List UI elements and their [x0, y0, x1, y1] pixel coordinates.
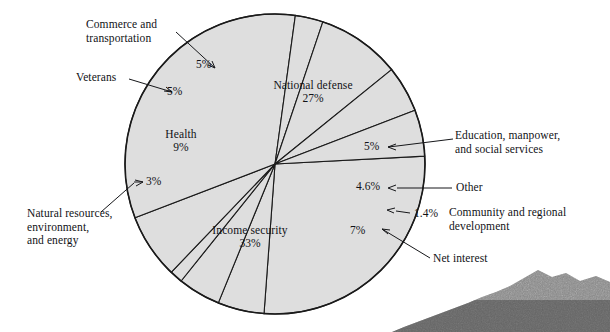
slice-value-health: 9%: [146, 141, 216, 153]
pie-chart-figure: Commerce and transportation Veterans Hea…: [0, 0, 610, 332]
slice-label-community-development: Community and regional development: [449, 206, 566, 233]
slice-label-national-defense: National defense: [252, 79, 374, 93]
slice-label-natural-resources: Natural resources, environment, and ener…: [27, 207, 112, 248]
slice-value-other: 4.6%: [356, 180, 380, 192]
slice-value-education: 5%: [364, 140, 379, 152]
pie-slices-group: [125, 14, 425, 314]
slice-value-natural-resources: 3%: [146, 175, 161, 187]
slice-value-net-interest: 7%: [350, 224, 365, 236]
slice-value-national-defense: 27%: [252, 92, 374, 104]
slice-label-health: Health: [146, 128, 216, 142]
slice-label-commerce-and-transportation: Commerce and transportation: [86, 18, 157, 45]
pie-chart-svg: [0, 0, 610, 332]
slice-value-community-development: 1.4%: [414, 207, 438, 219]
slice-label-income-security: Income security: [194, 224, 306, 238]
slice-value-veterans: 5%: [167, 85, 182, 97]
slice-label-net-interest: Net interest: [433, 252, 488, 266]
slice-value-commerce-and-transportation: 5%: [196, 58, 211, 70]
slice-label-other: Other: [456, 181, 483, 195]
slice-label-veterans: Veterans: [76, 71, 116, 85]
slice-label-education: Education, manpower, and social services: [455, 129, 560, 156]
slice-value-income-security: 33%: [194, 237, 306, 249]
scanned-photo-artifact: [380, 265, 610, 332]
